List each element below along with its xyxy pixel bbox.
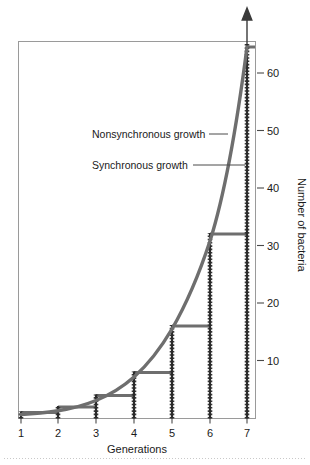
y-tick-label-10: 10 (267, 355, 279, 367)
nonsynchronous-growth-curve (21, 47, 247, 415)
annotation-label-nonsynchronous: Nonsynchronous growth (92, 128, 205, 140)
x-tick-marks (21, 419, 247, 424)
annotation-label-synchronous: Synchronous growth (92, 159, 188, 171)
growth-up-arrow-icon (242, 8, 252, 44)
annotation-nonsynchronous: Nonsynchronous growth (92, 128, 228, 140)
y-tick-label-30: 30 (267, 240, 279, 252)
x-axis-title: Generations (107, 443, 167, 455)
y-tick-marks (257, 73, 264, 361)
x-tick-label-4: 4 (131, 427, 137, 439)
y-tick-label-60: 60 (267, 67, 279, 79)
y-tick-label-20: 20 (267, 297, 279, 309)
x-tick-label-2: 2 (55, 427, 61, 439)
x-tick-label-3: 3 (93, 427, 99, 439)
y-tick-label-40: 40 (267, 182, 279, 194)
x-tick-label-1: 1 (18, 427, 24, 439)
y-tick-labels: 10 20 30 40 50 60 (267, 67, 279, 367)
x-axis: 1 2 3 4 5 6 7 Generations (18, 419, 256, 456)
x-tick-label-7: 7 (244, 427, 250, 439)
series-synchronous-growth (21, 8, 255, 419)
bacterial-growth-figure: 1 2 3 4 5 6 7 Generations 10 20 (0, 0, 310, 465)
plot-frame (19, 42, 256, 419)
x-tick-label-6: 6 (207, 427, 213, 439)
y-axis: 10 20 30 40 50 60 Number of bacteria (257, 67, 308, 367)
y-tick-label-50: 50 (267, 125, 279, 137)
y-axis-title: Number of bacteria (296, 178, 308, 272)
annotation-synchronous: Synchronous growth (92, 159, 245, 171)
growth-chart: 1 2 3 4 5 6 7 Generations 10 20 (0, 0, 310, 465)
x-tick-labels: 1 2 3 4 5 6 7 (18, 427, 250, 439)
step-treads (21, 47, 255, 413)
x-tick-label-5: 5 (169, 427, 175, 439)
